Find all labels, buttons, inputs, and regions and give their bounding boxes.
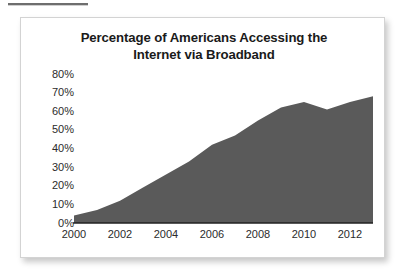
x-axis-tick-2004: 2004 xyxy=(149,229,183,240)
plot-area: 80%70%60%50%40%30%20%10%0% 2000200220042… xyxy=(21,18,386,259)
x-axis-tick-2006: 2006 xyxy=(195,229,229,240)
x-axis-tick-2012: 2012 xyxy=(333,229,367,240)
x-axis-tick-2002: 2002 xyxy=(103,229,137,240)
x-axis-tick-labels: 2000200220042006200820102012 xyxy=(21,18,386,259)
x-axis-tick-2008: 2008 xyxy=(241,229,275,240)
page-top-rule xyxy=(8,3,88,5)
x-axis-tick-2000: 2000 xyxy=(57,229,91,240)
x-axis-tick-2010: 2010 xyxy=(287,229,321,240)
chart-figure: Percentage of Americans Accessing the In… xyxy=(20,17,385,258)
page-canvas: Percentage of Americans Accessing the In… xyxy=(0,0,413,280)
